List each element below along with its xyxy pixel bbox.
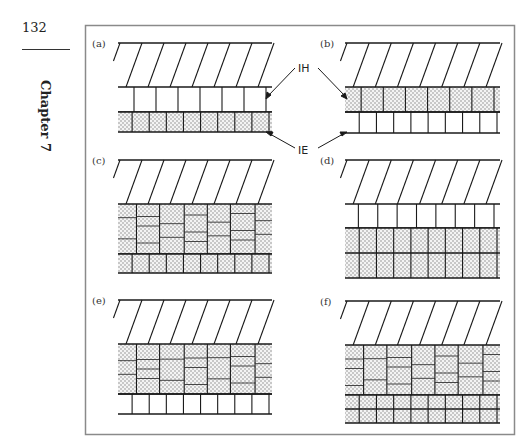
- hatch-line: [258, 160, 274, 204]
- hatch-line: [170, 160, 186, 204]
- arrow-ih-to-a: [268, 68, 295, 96]
- hatch-line: [148, 160, 164, 204]
- hatch-line: [214, 43, 230, 87]
- panel-b: (b): [320, 38, 502, 133]
- hatch-line: [192, 43, 208, 87]
- hatch-line: [340, 301, 347, 319]
- hatch-line: [420, 160, 436, 204]
- hatch-line: [148, 43, 164, 87]
- hatch-line: [236, 160, 252, 204]
- grain-fill: [118, 112, 272, 132]
- hatch-line: [170, 43, 186, 87]
- hatch-line: [113, 300, 120, 318]
- hatch-line: [236, 300, 252, 344]
- hatch-line: [340, 43, 347, 61]
- hatch-line: [486, 160, 502, 204]
- panel-label: (e): [92, 295, 106, 306]
- hatch-line: [442, 301, 458, 345]
- grain-fill: [345, 87, 500, 112]
- hatch-line: [192, 160, 208, 204]
- panel-d: (d): [320, 155, 502, 278]
- hatch-line: [126, 43, 142, 87]
- panel-f: (f): [320, 296, 502, 423]
- panel-label: (c): [92, 155, 106, 166]
- panel-c: (c): [92, 155, 274, 273]
- hatch-line: [397, 160, 413, 204]
- hatch-line: [353, 160, 369, 204]
- hatch-line: [126, 160, 142, 204]
- panel-label: (f): [320, 296, 332, 307]
- hatch-line: [170, 300, 186, 344]
- panel-a: (a): [92, 38, 274, 132]
- arrow-ie-to-b: [318, 134, 343, 148]
- hatch-line: [258, 300, 274, 344]
- hatch-line: [340, 160, 347, 178]
- hatch-line: [258, 43, 274, 87]
- hatch-line: [442, 160, 458, 204]
- hatch-line: [442, 43, 458, 87]
- hatch-line: [375, 301, 391, 345]
- figure: (a)(b)(c)(d)(e)(f) IH IE: [0, 0, 531, 448]
- hatch-line: [486, 43, 502, 87]
- hatch-line: [126, 300, 142, 344]
- hatch-line: [486, 301, 502, 345]
- hatch-line: [148, 300, 164, 344]
- hatch-line: [397, 301, 413, 345]
- hatch-line: [353, 301, 369, 345]
- hatch-line: [214, 300, 230, 344]
- grain-fill: [118, 204, 272, 254]
- grain-fill: [118, 254, 272, 273]
- hatch-line: [192, 300, 208, 344]
- arrow-ie-to-a: [270, 134, 295, 148]
- hatch-line: [113, 43, 120, 61]
- hatch-line: [420, 43, 436, 87]
- hatch-line: [353, 43, 369, 87]
- grain-fill: [345, 345, 500, 395]
- hatch-line: [464, 160, 480, 204]
- hatch-line: [113, 160, 120, 178]
- callout-ih-label: IH: [298, 62, 310, 75]
- panel-label: (b): [320, 38, 334, 49]
- panel-label: (a): [92, 38, 106, 49]
- panel-e: (e): [92, 295, 274, 414]
- hatch-line: [214, 160, 230, 204]
- hatch-line: [420, 301, 436, 345]
- hatch-line: [236, 43, 252, 87]
- hatch-line: [464, 301, 480, 345]
- callout-ie-label: IE: [298, 144, 308, 157]
- panel-label: (d): [320, 155, 334, 166]
- hatch-line: [375, 43, 391, 87]
- hatch-line: [375, 160, 391, 204]
- hatch-line: [464, 43, 480, 87]
- arrow-ih-to-b: [318, 68, 345, 96]
- hatch-line: [397, 43, 413, 87]
